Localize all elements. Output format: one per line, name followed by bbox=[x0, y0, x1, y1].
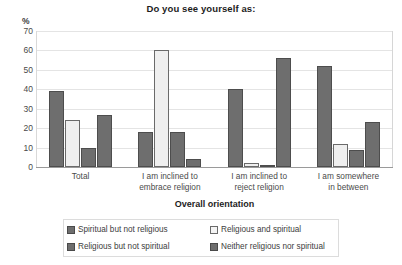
chart-title: Do you see yourself as: bbox=[0, 3, 402, 14]
bar bbox=[317, 66, 332, 167]
chart-legend: Spiritual but not religiousReligious and… bbox=[63, 219, 339, 257]
x-axis-category-label: I am inclined toembrace religion bbox=[125, 171, 214, 199]
legend-label: Religious and spiritual bbox=[221, 225, 301, 234]
y-axis-tick-label: 30 bbox=[3, 104, 33, 114]
bar bbox=[170, 132, 185, 167]
legend-item[interactable]: Religious and spiritual bbox=[210, 221, 343, 238]
legend-label: Neither religious nor spiritual bbox=[221, 242, 325, 251]
y-axis-tick-label: 0 bbox=[3, 162, 33, 172]
y-axis-tick-label: 60 bbox=[3, 45, 33, 55]
bar bbox=[49, 91, 64, 167]
legend-label: Religious but not spiritual bbox=[78, 242, 169, 251]
bar bbox=[81, 148, 96, 167]
bar-group bbox=[304, 31, 393, 167]
legend-swatch-icon bbox=[67, 243, 75, 251]
bar bbox=[186, 159, 201, 167]
bar bbox=[97, 115, 112, 167]
bar bbox=[333, 144, 348, 167]
y-axis-unit-label: % bbox=[22, 16, 30, 26]
bar bbox=[244, 163, 259, 167]
bar bbox=[349, 150, 364, 167]
legend-swatch-icon bbox=[210, 226, 218, 234]
bar bbox=[154, 50, 169, 167]
x-axis-category-label: I am somewherein between bbox=[304, 171, 393, 199]
bar-groups bbox=[36, 31, 393, 167]
x-axis-category-label: Total bbox=[36, 171, 125, 199]
bar bbox=[276, 58, 291, 167]
x-axis-category-label: I am inclined toreject religion bbox=[215, 171, 304, 199]
legend-label: Spiritual but not religious bbox=[78, 225, 168, 234]
x-axis-line bbox=[36, 167, 393, 168]
bar-chart: Do you see yourself as: % 70605040302010… bbox=[0, 0, 402, 265]
legend-item[interactable]: Spiritual but not religious bbox=[67, 221, 210, 238]
bar bbox=[365, 122, 380, 167]
y-axis-tick-labels: 706050403020100 bbox=[0, 31, 33, 167]
x-axis-title: Overall orientation bbox=[36, 199, 393, 209]
bar bbox=[260, 165, 275, 167]
x-axis-category-labels: TotalI am inclined toembrace religionI a… bbox=[36, 171, 393, 199]
bar-group bbox=[125, 31, 214, 167]
y-axis-tick-label: 70 bbox=[3, 26, 33, 36]
bar bbox=[138, 132, 153, 167]
bar-group bbox=[215, 31, 304, 167]
bar-group bbox=[36, 31, 125, 167]
legend-item[interactable]: Neither religious nor spiritual bbox=[210, 238, 343, 255]
bar bbox=[65, 120, 80, 167]
legend-swatch-icon bbox=[210, 243, 218, 251]
legend-swatch-icon bbox=[67, 226, 75, 234]
y-axis-tick-label: 10 bbox=[3, 143, 33, 153]
legend-item[interactable]: Religious but not spiritual bbox=[67, 238, 210, 255]
y-axis-tick-label: 40 bbox=[3, 84, 33, 94]
bar bbox=[228, 89, 243, 167]
y-axis-tick-label: 50 bbox=[3, 65, 33, 75]
y-axis-tick-label: 20 bbox=[3, 123, 33, 133]
